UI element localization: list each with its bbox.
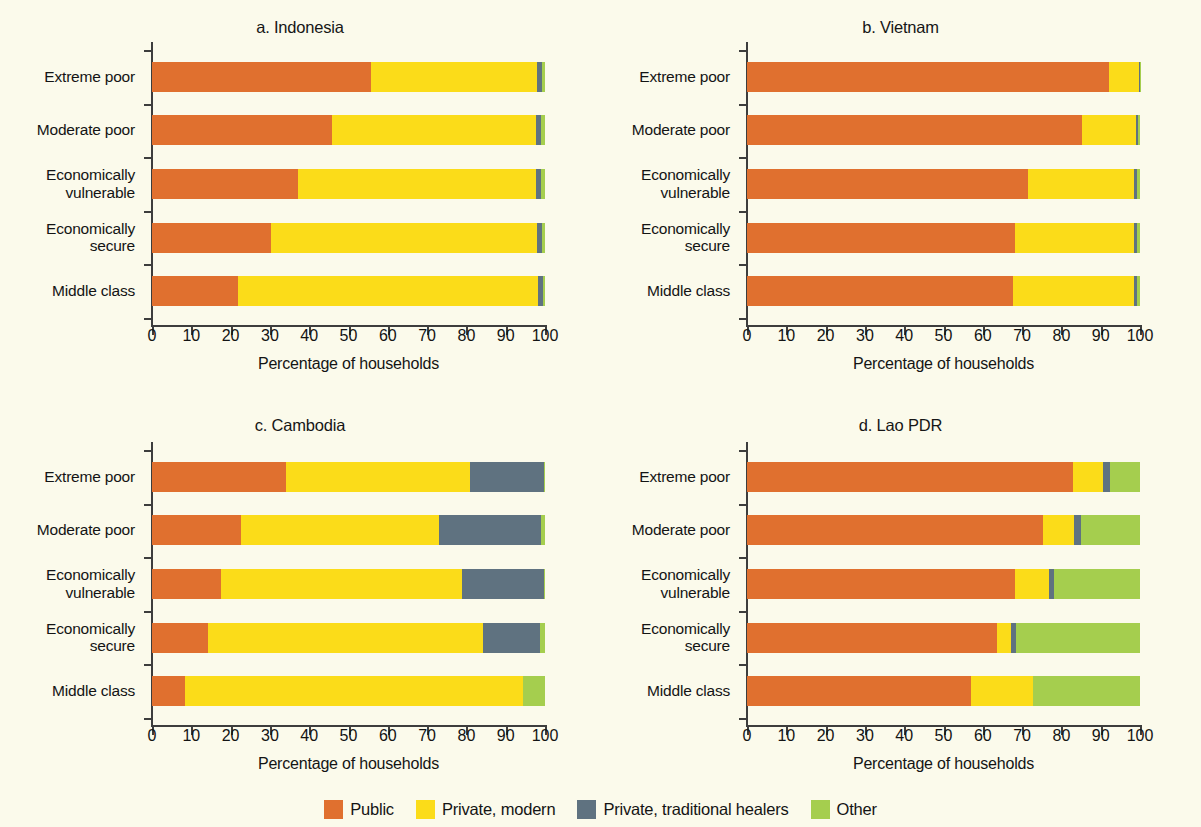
y-tick — [739, 718, 747, 720]
x-axis-tick-label: 10 — [182, 327, 200, 345]
bar-segment — [1073, 462, 1103, 492]
y-axis-labels-lao-pdr: Extreme poorModerate poorEconomicallyvul… — [600, 450, 739, 718]
bar-row — [747, 676, 1140, 706]
y-tick — [739, 104, 747, 106]
bar-segment — [1137, 169, 1140, 199]
bar-segment — [541, 169, 545, 199]
legend-item[interactable]: Private, traditional healers — [577, 800, 788, 819]
legend-item[interactable]: Private, modern — [416, 800, 555, 819]
x-axis-labels-vietnam: 0102030405060708090100 — [747, 327, 1140, 351]
bar-segment — [238, 276, 538, 306]
y-axis-category-line: Extreme poor — [639, 468, 730, 486]
y-axis-category-line: Economically — [641, 620, 730, 638]
bar-row — [152, 515, 545, 545]
y-axis-category-line: Middle class — [647, 282, 730, 300]
bar-segment — [298, 169, 536, 199]
y-axis-category-line: vulnerable — [641, 584, 730, 602]
x-axis-tick-label: 60 — [379, 327, 397, 345]
bar-segment — [747, 569, 1015, 599]
y-tick — [739, 50, 747, 52]
y-tick — [739, 211, 747, 213]
y-axis-ticks — [144, 42, 152, 326]
panel-title-vietnam: b. Vietnam — [600, 18, 1201, 37]
y-axis-category-line: vulnerable — [641, 184, 730, 202]
bar-row — [747, 462, 1140, 492]
bar-segment — [152, 223, 271, 253]
bar-segment — [1028, 169, 1134, 199]
bar-segment — [152, 569, 221, 599]
y-tick — [739, 557, 747, 559]
y-axis-category-line: Moderate poor — [632, 521, 730, 539]
bar-segment — [470, 462, 544, 492]
bar-segment — [1137, 223, 1140, 253]
x-axis-tick-label: 30 — [261, 727, 279, 745]
x-axis-tick-label: 100 — [532, 727, 559, 745]
y-axis-category-label: Economicallysecure — [46, 620, 135, 656]
y-tick — [739, 664, 747, 666]
y-axis-category-label: Moderate poor — [632, 121, 730, 139]
x-axis-tick-label: 30 — [261, 327, 279, 345]
y-axis-category-line: Economically — [46, 566, 135, 584]
bar-segment — [152, 115, 332, 145]
bar-segment — [1043, 515, 1074, 545]
y-axis-category-line: vulnerable — [46, 184, 135, 202]
y-axis-category-label: Moderate poor — [37, 521, 135, 539]
bar-segment — [152, 623, 208, 653]
figure-stacked-bar-charts: a. Indonesia Extreme poorModerate poorEc… — [0, 0, 1201, 827]
bar-rows — [152, 50, 545, 318]
bar-segment — [747, 515, 1043, 545]
x-axis-tick-label: 40 — [300, 327, 318, 345]
y-axis-category-line: Moderate poor — [37, 521, 135, 539]
bar-segment — [1015, 569, 1049, 599]
bar-segment — [152, 515, 241, 545]
bar-segment — [1074, 515, 1081, 545]
x-axis-tick-label: 90 — [1092, 727, 1110, 745]
bar-segment — [371, 62, 537, 92]
y-axis-category-line: Economically — [641, 566, 730, 584]
bar-row — [747, 115, 1140, 145]
bar-segment — [208, 623, 483, 653]
x-axis-tick-label: 20 — [817, 327, 835, 345]
x-axis-title-indonesia: Percentage of households — [152, 355, 545, 373]
x-axis-tick-label: 10 — [777, 327, 795, 345]
bar-segment — [747, 223, 1015, 253]
panel-lao-pdr: d. Lao PDR Extreme poorModerate poorEcon… — [600, 400, 1201, 782]
panel-title-lao-pdr: d. Lao PDR — [600, 416, 1201, 435]
x-axis-labels-indonesia: 0102030405060708090100 — [152, 327, 545, 351]
y-axis-category-label: Moderate poor — [37, 121, 135, 139]
legend-item[interactable]: Public — [324, 800, 394, 819]
bar-segment — [1082, 115, 1135, 145]
bar-segment — [747, 115, 1082, 145]
x-axis-tick-label: 60 — [974, 727, 992, 745]
y-tick — [739, 504, 747, 506]
y-tick — [144, 504, 152, 506]
panel-cambodia: c. Cambodia Extreme poorModerate poorEco… — [0, 400, 600, 782]
x-axis-tick-label: 30 — [856, 727, 874, 745]
legend-label: Private, traditional healers — [603, 800, 788, 819]
bar-rows — [747, 450, 1140, 718]
x-axis-tick-label: 70 — [1013, 727, 1031, 745]
y-tick — [144, 104, 152, 106]
y-axis-category-line: Economically — [641, 220, 730, 238]
bar-row — [152, 569, 545, 599]
bar-segment — [544, 569, 545, 599]
y-axis-category-label: Moderate poor — [632, 521, 730, 539]
y-axis-category-label: Middle class — [647, 682, 730, 700]
bar-segment — [1016, 623, 1140, 653]
bar-segment — [541, 515, 545, 545]
bar-segment — [997, 623, 1012, 653]
y-axis-category-line: Middle class — [647, 682, 730, 700]
bar-segment — [747, 169, 1028, 199]
x-axis-tick-label: 40 — [895, 327, 913, 345]
bar-segment — [1054, 569, 1140, 599]
plot-area-indonesia — [152, 50, 545, 318]
bar-segment — [1013, 276, 1134, 306]
bar-row — [152, 623, 545, 653]
bar-segment — [543, 276, 545, 306]
bar-row — [747, 223, 1140, 253]
x-axis-tick-label: 90 — [497, 727, 515, 745]
plot-area-cambodia — [152, 450, 545, 718]
bar-row — [747, 623, 1140, 653]
legend-item[interactable]: Other — [811, 800, 877, 819]
y-axis-category-line: Extreme poor — [44, 468, 135, 486]
